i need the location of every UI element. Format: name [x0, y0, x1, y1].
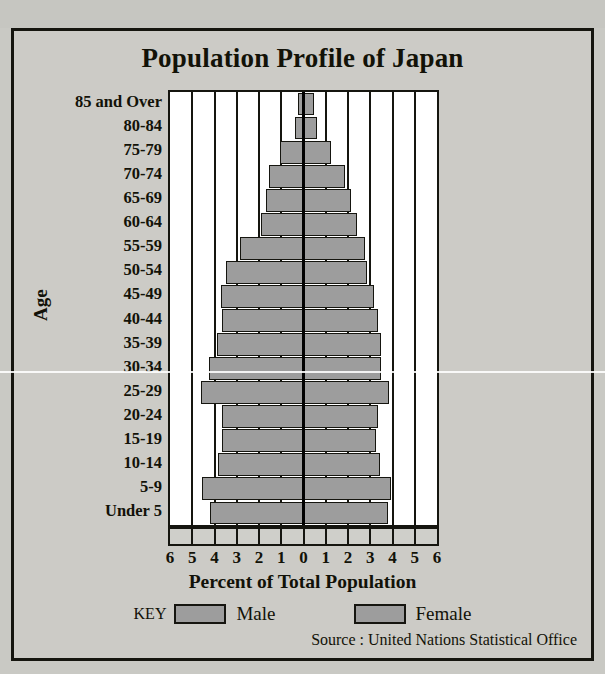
bar-female: [304, 189, 352, 212]
bar-female: [304, 237, 365, 260]
bar-male: [280, 141, 303, 164]
page: Population Profile of Japan Age 85 and O…: [0, 0, 605, 674]
bar-female: [304, 309, 379, 332]
bar-male: [222, 429, 303, 452]
x-axis-tick-label: 6: [158, 548, 182, 568]
x-axis-tick-label: 5: [180, 548, 204, 568]
x-axis-tick: [303, 529, 305, 544]
legend-swatch-male: [174, 604, 226, 624]
x-axis-tick: [214, 529, 216, 544]
x-axis-tick-label: 4: [381, 548, 405, 568]
bar-male: [269, 165, 303, 188]
bar-female: [304, 357, 382, 380]
bar-female: [304, 381, 390, 404]
x-axis-tick-label: 0: [292, 548, 316, 568]
chart-figure: Population Profile of Japan Age 85 and O…: [11, 28, 594, 661]
page-title: Population Profile of Japan: [14, 43, 591, 74]
y-axis-tick-label: 5-9: [140, 475, 162, 499]
bar-male: [222, 405, 303, 428]
x-axis-tick-label: 3: [225, 548, 249, 568]
plot-canvas: [168, 90, 439, 527]
plot-area: [168, 90, 439, 527]
bar-female: [304, 261, 367, 284]
bar-male: [217, 333, 304, 356]
bar-male: [210, 502, 303, 525]
legend-swatch-female: [354, 604, 406, 624]
bar-male: [266, 189, 304, 212]
x-axis-tick: [369, 529, 371, 544]
bar-male: [226, 261, 304, 284]
x-axis-tick: [325, 529, 327, 544]
x-axis-tick: [258, 529, 260, 544]
bar-male: [221, 285, 303, 308]
bar-female: [304, 285, 374, 308]
y-axis-tick-labels: 85 and Over80-8475-7970-7465-6960-6455-5…: [32, 90, 166, 527]
bar-female: [304, 405, 379, 428]
y-axis-tick-label: 85 and Over: [75, 90, 162, 114]
legend-key-label: KEY: [134, 605, 167, 623]
x-axis-tick-label: 2: [247, 548, 271, 568]
bar-female: [304, 477, 392, 500]
x-axis-title: Percent of Total Population: [14, 571, 591, 593]
x-axis-tick-strip: [168, 527, 439, 546]
x-axis-tick-label: 5: [403, 548, 427, 568]
bar-female: [304, 165, 345, 188]
x-axis-tick: [236, 529, 238, 544]
bar-female: [304, 429, 376, 452]
x-axis-tick-labels: 6543210123456: [168, 548, 439, 570]
y-axis-tick-label: 50-54: [124, 258, 163, 282]
y-axis-tick-label: 65-69: [124, 186, 163, 210]
bar-male: [240, 237, 303, 260]
x-axis-tick: [191, 529, 193, 544]
x-axis-tick-label: 1: [269, 548, 293, 568]
legend-entry-female: Female: [354, 603, 472, 625]
legend: KEY Male Female: [14, 603, 591, 625]
y-axis-tick-label: 45-49: [124, 282, 163, 306]
y-axis-tick-label: 70-74: [124, 162, 163, 186]
legend-entry-male: Male: [174, 603, 275, 625]
bar-female: [304, 141, 332, 164]
y-axis-tick-label: 35-39: [124, 331, 163, 355]
x-axis-tick-label: 1: [314, 548, 338, 568]
y-axis-tick-label: 80-84: [124, 114, 163, 138]
y-axis-tick-label: Under 5: [105, 499, 162, 523]
x-axis-tick-label: 3: [358, 548, 382, 568]
bar-female: [304, 502, 389, 525]
legend-label-female: Female: [416, 603, 472, 625]
x-axis-tick: [414, 529, 416, 544]
x-axis-tick-label: 4: [203, 548, 227, 568]
y-axis-tick-label: 30-34: [124, 355, 163, 379]
y-axis-tick-label: 60-64: [124, 210, 163, 234]
y-axis-tick-label: 10-14: [124, 451, 163, 475]
bar-male: [261, 213, 303, 236]
bar-female: [304, 213, 357, 236]
bar-female: [304, 93, 314, 116]
y-axis-tick-label: 25-29: [124, 379, 163, 403]
bar-male: [218, 453, 304, 476]
bar-male: [222, 309, 303, 332]
center-axis-line: [302, 92, 305, 525]
source-note: Source : United Nations Statistical Offi…: [311, 631, 577, 649]
page-top-margin: [0, 0, 605, 28]
y-axis-tick-label: 20-24: [124, 403, 163, 427]
y-axis-tick-label: 75-79: [124, 138, 163, 162]
bar-male: [202, 477, 303, 500]
bar-female: [304, 333, 382, 356]
y-axis-tick-label: 55-59: [124, 234, 163, 258]
bar-male: [209, 357, 304, 380]
bar-female: [304, 117, 317, 140]
x-axis-tick: [347, 529, 349, 544]
bar-male: [201, 381, 303, 404]
legend-label-male: Male: [236, 603, 275, 625]
y-axis-tick-label: 15-19: [124, 427, 163, 451]
x-axis-tick: [392, 529, 394, 544]
x-axis-tick-label: 6: [425, 548, 449, 568]
x-axis-tick: [280, 529, 282, 544]
bar-female: [304, 453, 381, 476]
x-axis-tick-label: 2: [336, 548, 360, 568]
y-axis-tick-label: 40-44: [124, 307, 163, 331]
